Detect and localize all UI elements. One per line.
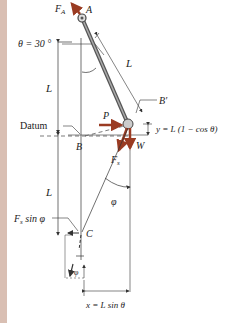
phi-arc (105, 178, 130, 187)
theta-arc (82, 68, 96, 73)
spring-original-line (85, 125, 128, 136)
label-L-upper: L (45, 82, 52, 94)
label-B-prime: B′ (159, 95, 168, 106)
label-theta: θ = 30 ° (18, 38, 51, 49)
label-y-equation: y = L (1 − cos θ) (155, 124, 217, 134)
dimension-L-upper: L (45, 42, 72, 133)
label-W: W (136, 140, 146, 151)
label-L-lower: L (45, 186, 52, 198)
label-C: C (86, 228, 93, 239)
label-P: P (102, 110, 109, 121)
label-L-rod: L (125, 57, 132, 69)
fs-sin-leader (52, 218, 78, 231)
force-FA-arrow (72, 4, 80, 14)
label-x-equation: x = L sin θ (85, 300, 125, 310)
pendulum-spring-diagram: L L Datum B θ = 30 ° FA A L B′ P y = L (… (0, 0, 234, 323)
spring-line (82, 128, 128, 232)
b-prime-leader (136, 100, 157, 113)
bob-B-prime (123, 119, 133, 129)
label-FA: FA (54, 3, 66, 16)
datum-leader (63, 126, 80, 134)
label-phi-small: φ (74, 268, 79, 277)
label-A: A (85, 4, 93, 15)
label-datum: Datum (20, 120, 47, 131)
label-B: B (76, 141, 82, 152)
label-phi: φ (111, 196, 117, 207)
dimension-L-lower: L (45, 135, 58, 235)
label-Fs-sin-phi: Fs sin φ (13, 213, 46, 226)
